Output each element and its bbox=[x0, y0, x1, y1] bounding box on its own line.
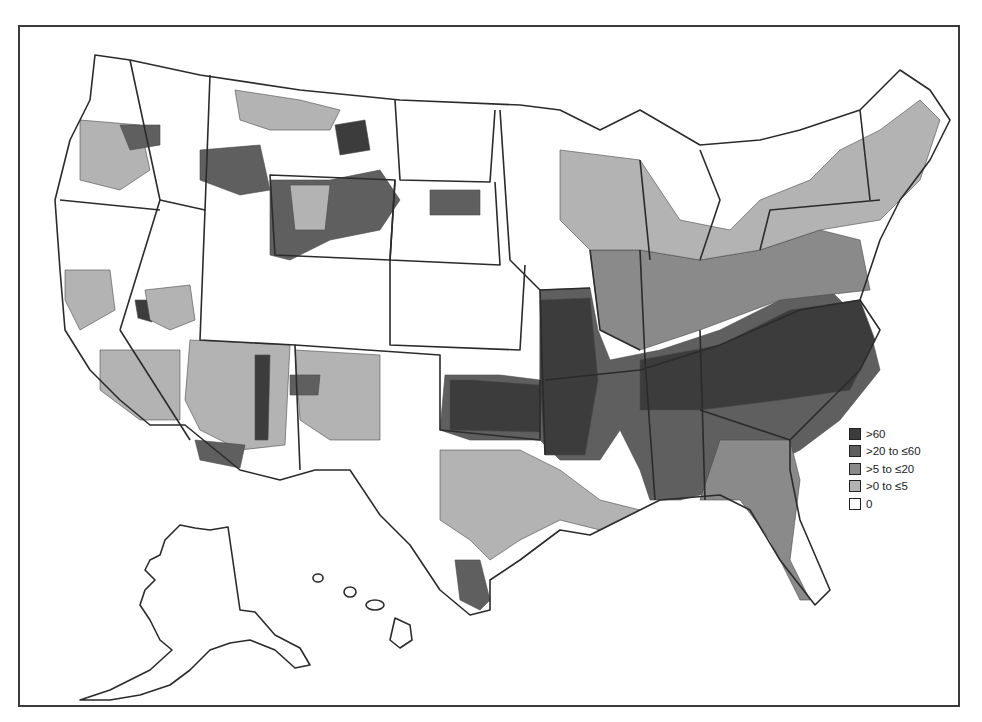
legend-swatch bbox=[849, 463, 861, 475]
legend-item-0-5: >0 to ≤5 bbox=[849, 478, 921, 496]
legend-item-gt60: >60 bbox=[849, 425, 921, 443]
legend-item-20-60: >20 to ≤60 bbox=[849, 443, 921, 461]
legend-item-zero: 0 bbox=[849, 495, 921, 513]
us-county-choropleth-map bbox=[0, 0, 982, 722]
legend-label: >20 to ≤60 bbox=[866, 445, 921, 457]
legend-swatch bbox=[849, 480, 861, 492]
alaska bbox=[80, 525, 310, 700]
legend-label: >5 to ≤20 bbox=[866, 463, 914, 475]
legend-item-5-20: >5 to ≤20 bbox=[849, 460, 921, 478]
legend-label: 0 bbox=[866, 498, 872, 510]
hawaii bbox=[313, 574, 412, 648]
legend-swatch bbox=[849, 498, 861, 510]
legend-swatch bbox=[849, 428, 861, 440]
legend-swatch bbox=[849, 445, 861, 457]
map-legend: >60 >20 to ≤60 >5 to ≤20 >0 to ≤5 0 bbox=[849, 425, 921, 513]
legend-label: >0 to ≤5 bbox=[866, 480, 908, 492]
legend-label: >60 bbox=[866, 428, 886, 440]
